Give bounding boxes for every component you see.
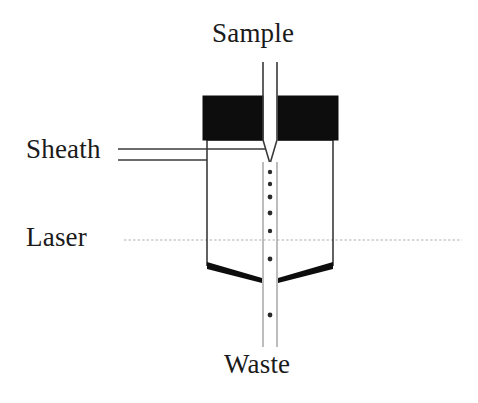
funnel-wedge-right: [278, 262, 333, 283]
flow-cytometry-diagram: Sample Sheath Laser Waste: [0, 0, 478, 403]
label-sheath: Sheath: [26, 136, 101, 163]
particle: [268, 313, 273, 318]
funnel-wedge-left: [207, 262, 262, 283]
particle-stream: [268, 170, 273, 318]
particle: [268, 182, 272, 186]
label-laser: Laser: [26, 224, 87, 251]
housing-block-right: [278, 96, 338, 140]
label-sample: Sample: [212, 20, 294, 47]
particle: [268, 211, 273, 216]
sample-needle-left-wall: [263, 62, 270, 162]
particle: [268, 229, 272, 233]
housing-block-left: [203, 96, 263, 140]
flow-cell-schematic: [0, 0, 478, 403]
particle: [268, 195, 273, 200]
label-waste: Waste: [224, 351, 290, 378]
sample-needle-right-wall: [271, 62, 278, 162]
particle: [268, 170, 272, 174]
particle: [268, 257, 273, 262]
